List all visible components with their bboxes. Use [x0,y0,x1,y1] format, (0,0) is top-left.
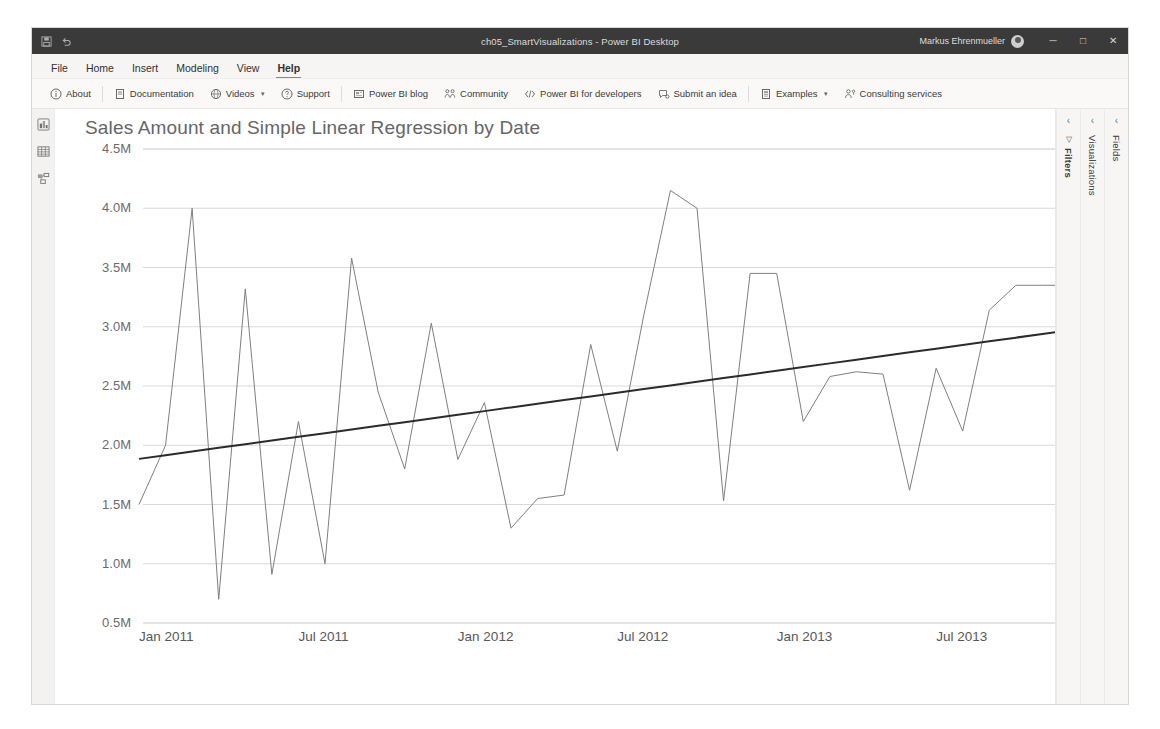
y-axis-tick-label: 3.5M [102,260,131,275]
ribbon-documentation-button[interactable]: Documentation [106,83,202,105]
document-icon [114,88,126,100]
ribbon-consulting-services-button[interactable]: Consulting services [836,83,950,105]
ribbon-power-bi-blog-label: Power BI blog [369,88,428,99]
help-ribbon: About Documentation Videos ▾ [32,79,1128,109]
collapse-chevron-icon[interactable]: ‹ [1115,116,1118,126]
ribbon-examples-button[interactable]: Examples ▾ [752,83,836,105]
menu-tab-insert[interactable]: Insert [123,60,167,78]
y-axis-tick-label: 1.0M [102,556,131,571]
blog-icon [353,88,365,100]
close-button[interactable]: ✕ [1098,28,1128,54]
ribbon-separator [748,86,749,102]
chart-gridlines [143,149,1055,623]
chart-svg: 4.5M4.0M3.5M3.0M2.5M2.0M1.5M1.0M0.5M Jan… [81,141,1055,649]
pane-fields[interactable]: ‹ Fields [1104,109,1128,704]
x-axis-tick-label: Jul 2013 [936,629,987,644]
x-axis-tick-label: Jan 2012 [458,629,514,644]
ribbon-support-button[interactable]: Support [273,83,338,105]
maximize-button[interactable]: □ [1068,28,1098,54]
menu-tab-help[interactable]: Help [268,60,309,78]
code-icon [524,88,536,100]
x-axis-tick-label: Jul 2012 [617,629,668,644]
chart-title: Sales Amount and Simple Linear Regressio… [81,115,1055,141]
chart-series-lines [139,190,1055,599]
menu-tab-home[interactable]: Home [77,60,123,78]
pane-filters-label: Filters [1063,148,1074,178]
data-view-icon[interactable] [36,144,50,158]
report-canvas[interactable]: ▾ Sales Amount and Simple Linear Regress… [55,109,1055,704]
chevron-down-icon: ▾ [261,90,265,98]
workspace: ▾ Sales Amount and Simple Linear Regress… [32,109,1128,704]
y-axis-tick-label: 2.0M [102,437,131,452]
ribbon-support-label: Support [297,88,330,99]
chart-y-axis-labels: 4.5M4.0M3.5M3.0M2.5M2.0M1.5M1.0M0.5M [102,141,131,630]
side-panes: ‹ ▽ Filters ‹ Visualizations ‹ Fields [1055,109,1128,704]
collapse-chevron-icon[interactable]: ‹ [1067,116,1070,126]
community-icon [444,88,456,100]
title-bar: ch05_SmartVisualizations - Power BI Desk… [32,28,1128,54]
pane-visualizations[interactable]: ‹ Visualizations [1080,109,1104,704]
y-axis-tick-label: 1.5M [102,497,131,512]
chevron-down-icon: ▾ [824,90,828,98]
ribbon-separator [341,86,342,102]
chart-plot-area: 4.5M4.0M3.5M3.0M2.5M2.0M1.5M1.0M0.5M Jan… [81,141,1055,649]
filter-funnel-icon: ▽ [1066,135,1072,144]
ribbon-power-bi-for-developers-button[interactable]: Power BI for developers [516,83,649,105]
ribbon-videos-button[interactable]: Videos ▾ [202,83,273,105]
pane-filters[interactable]: ‹ ▽ Filters [1056,109,1080,704]
account-name[interactable]: Markus Ehrenmueller [919,36,1011,46]
undo-icon[interactable] [61,36,72,47]
y-axis-tick-label: 2.5M [102,378,131,393]
ribbon-power-bi-blog-button[interactable]: Power BI blog [345,83,436,105]
model-view-icon[interactable] [36,171,50,185]
collapse-chevron-icon[interactable]: ‹ [1091,116,1094,126]
avatar[interactable] [1011,35,1024,48]
x-axis-tick-label: Jan 2013 [777,629,833,644]
ribbon-community-button[interactable]: Community [436,83,516,105]
save-icon[interactable] [41,36,52,47]
ribbon-community-label: Community [460,88,508,99]
ribbon-power-bi-for-developers-label: Power BI for developers [540,88,641,99]
minimize-button[interactable]: ─ [1038,28,1068,54]
menu-tab-view[interactable]: View [228,60,269,78]
pane-visualizations-label: Visualizations [1087,135,1098,196]
ribbon-examples-label: Examples [776,88,818,99]
y-axis-tick-label: 4.5M [102,141,131,156]
menu-tab-modeling[interactable]: Modeling [167,60,228,78]
y-axis-tick-label: 3.0M [102,319,131,334]
video-icon [210,88,222,100]
pane-fields-label: Fields [1111,135,1122,162]
y-axis-tick-label: 0.5M [102,615,131,630]
report-view-icon[interactable] [36,117,50,131]
question-circle-icon [281,88,293,100]
person-services-icon [844,88,856,100]
ribbon-about-label: About [66,88,91,99]
ribbon-separator [102,86,103,102]
series-line [139,330,1055,459]
screenshot-page: ch05_SmartVisualizations - Power BI Desk… [0,0,1160,729]
view-switcher-rail [32,109,55,704]
chart-x-axis-labels: Jan 2011Jul 2011Jan 2012Jul 2012Jan 2013… [139,629,987,644]
examples-icon [760,88,772,100]
ribbon-submit-an-idea-label: Submit an idea [674,88,737,99]
title-bar-right: Markus Ehrenmueller ─ □ ✕ [919,28,1128,54]
line-chart-visual[interactable]: Sales Amount and Simple Linear Regressio… [81,115,1055,655]
info-circle-icon [50,88,62,100]
idea-feedback-icon [658,88,670,100]
x-axis-tick-label: Jul 2011 [298,629,348,644]
x-axis-tick-label: Jan 2011 [139,629,194,644]
ribbon-videos-label: Videos [226,88,255,99]
ribbon-tab-bar: File Home Insert Modeling View Help [32,54,1128,79]
ribbon-consulting-services-label: Consulting services [860,88,942,99]
ribbon-submit-an-idea-button[interactable]: Submit an idea [650,83,745,105]
ribbon-documentation-label: Documentation [130,88,194,99]
power-bi-desktop-window: ch05_SmartVisualizations - Power BI Desk… [32,28,1128,704]
y-axis-tick-label: 4.0M [102,200,131,215]
quick-access-toolbar [32,36,72,47]
ribbon-about-button[interactable]: About [42,83,99,105]
menu-tab-file[interactable]: File [42,60,77,78]
